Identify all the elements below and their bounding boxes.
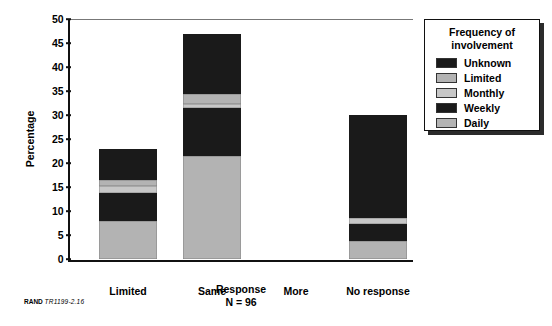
y-tick-label: 0 bbox=[58, 253, 64, 265]
legend-item-daily[interactable]: Daily bbox=[436, 115, 539, 130]
y-axis-label-wrap: Percentage bbox=[22, 19, 38, 259]
legend-swatch-daily bbox=[436, 118, 457, 128]
legend-label-weekly: Weekly bbox=[464, 102, 500, 114]
y-tick-mark bbox=[66, 114, 71, 116]
legend-label-limited: Limited bbox=[464, 72, 501, 84]
legend-title-line-2: involvement bbox=[431, 39, 533, 52]
y-tick-mark bbox=[66, 234, 71, 236]
x-axis-title-text: Response bbox=[216, 283, 266, 296]
bar-segment-limited bbox=[183, 94, 241, 105]
bar-segment-daily bbox=[99, 221, 157, 259]
x-axis-tick-label-no-response: No response bbox=[346, 285, 410, 297]
y-tick-mark bbox=[66, 90, 71, 92]
legend-swatch-limited bbox=[436, 73, 457, 83]
bar-segment-unknown bbox=[183, 34, 241, 94]
legend: Frequency of involvement UnknownLimitedM… bbox=[424, 19, 540, 131]
y-tick-label: 5 bbox=[58, 229, 64, 241]
chart-figure: Percentage 05101520253035404550LimitedSa… bbox=[0, 0, 552, 326]
bar-same bbox=[183, 34, 241, 259]
sample-size-label: N = 96 bbox=[216, 296, 266, 309]
bar-segment-monthly bbox=[99, 186, 157, 194]
x-axis-tick-label-more: More bbox=[283, 285, 308, 297]
legend-swatch-weekly bbox=[436, 103, 457, 113]
legend-items: UnknownLimitedMonthlyWeeklyDaily bbox=[425, 55, 539, 130]
y-tick-mark bbox=[66, 42, 71, 44]
legend-item-monthly[interactable]: Monthly bbox=[436, 85, 539, 100]
legend-item-unknown[interactable]: Unknown bbox=[436, 55, 539, 70]
legend-item-weekly[interactable]: Weekly bbox=[436, 100, 539, 115]
y-tick-label: 35 bbox=[52, 85, 63, 97]
figure-id: TR1199-2.16 bbox=[45, 298, 85, 305]
y-tick-label: 15 bbox=[52, 181, 63, 193]
y-tick-label: 40 bbox=[52, 61, 63, 73]
y-tick-label: 25 bbox=[52, 133, 63, 145]
plot-area: 05101520253035404550LimitedSameMoreNo re… bbox=[71, 19, 413, 259]
legend-swatch-monthly bbox=[436, 88, 457, 98]
y-tick-mark bbox=[66, 186, 71, 188]
legend-label-unknown: Unknown bbox=[464, 57, 511, 69]
legend-label-monthly: Monthly bbox=[464, 87, 504, 99]
legend-label-daily: Daily bbox=[464, 117, 489, 129]
legend-item-limited[interactable]: Limited bbox=[436, 70, 539, 85]
y-tick-mark bbox=[66, 258, 71, 260]
y-axis-label: Percentage bbox=[24, 111, 36, 168]
y-tick-mark bbox=[66, 210, 71, 212]
y-tick-mark bbox=[66, 162, 71, 164]
bar-segment-unknown bbox=[99, 149, 157, 180]
x-axis-title: ResponseN = 96 bbox=[216, 283, 266, 309]
bar-limited bbox=[99, 149, 157, 259]
bar-segment-unknown bbox=[349, 115, 407, 218]
y-tick-label: 20 bbox=[52, 157, 63, 169]
bar-no-response bbox=[349, 115, 407, 259]
bar-segment-monthly bbox=[349, 218, 407, 225]
y-tick-label: 30 bbox=[52, 109, 63, 121]
bar-segment-weekly bbox=[349, 224, 407, 240]
legend-swatch-unknown bbox=[436, 58, 457, 68]
y-tick-mark bbox=[66, 66, 71, 68]
y-tick-label: 10 bbox=[52, 205, 63, 217]
legend-title: Frequency of involvement bbox=[425, 26, 539, 55]
y-tick-mark bbox=[66, 138, 71, 140]
y-tick-label: 50 bbox=[52, 13, 63, 25]
legend-title-line-1: Frequency of bbox=[431, 26, 533, 39]
rand-brand: RAND bbox=[24, 298, 43, 305]
bar-segment-weekly bbox=[183, 108, 241, 156]
bar-segment-weekly bbox=[99, 193, 157, 220]
figure-source-note: RAND TR1199-2.16 bbox=[24, 298, 84, 305]
bar-segment-daily bbox=[183, 156, 241, 259]
x-axis-tick-label-limited: Limited bbox=[109, 285, 146, 297]
bar-segment-daily bbox=[349, 241, 407, 259]
y-tick-mark bbox=[66, 18, 71, 20]
y-tick-label: 45 bbox=[52, 37, 63, 49]
